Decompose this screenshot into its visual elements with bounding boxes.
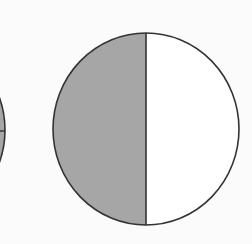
partial-circle-shaded-region xyxy=(0,35,5,225)
main-circle-shaded-half xyxy=(53,33,146,225)
main-circle-unshaded-half xyxy=(146,33,239,225)
diagram-canvas xyxy=(0,0,252,244)
main-circle xyxy=(53,33,239,225)
fraction-circles-figure xyxy=(0,0,252,244)
partial-circle xyxy=(0,35,5,225)
